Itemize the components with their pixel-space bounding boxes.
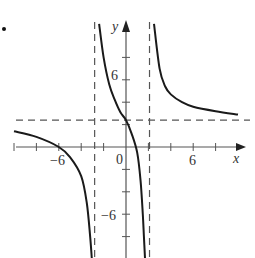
x-tick-label-6: 6 bbox=[189, 153, 196, 168]
x-axis-label: x bbox=[232, 151, 240, 166]
axes bbox=[16, 20, 246, 258]
y-tick-label-6: 6 bbox=[111, 68, 118, 83]
y-axis-label: y bbox=[110, 19, 119, 34]
y-axis-arrow-icon bbox=[122, 20, 130, 32]
axis-labels: y x 0 −6 6 6 −6 bbox=[50, 19, 240, 223]
origin-label: 0 bbox=[116, 152, 123, 167]
function-graph: y x 0 −6 6 6 −6 bbox=[0, 0, 255, 258]
x-tick-label-neg6: −6 bbox=[50, 153, 65, 168]
x-axis-arrow-icon bbox=[236, 143, 246, 151]
curve-branch-1 bbox=[14, 131, 92, 258]
y-tick-label-neg6: −6 bbox=[101, 208, 116, 223]
curve-branch-3 bbox=[154, 24, 238, 115]
